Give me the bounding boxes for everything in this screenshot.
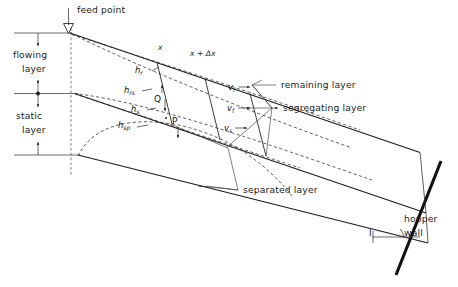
right-leaders — [170, 80, 278, 190]
static-layer-base — [78, 155, 428, 243]
static-layer-label-line1: static — [16, 110, 42, 121]
thickness-hsp: hsp — [118, 120, 130, 132]
static-layer-label-line2: layer — [22, 124, 46, 135]
diagram-svg: flowing layer static layer feed point — [0, 0, 458, 287]
separated-layer-leader-1 — [200, 148, 238, 190]
separated-layer-label: separated layer — [243, 184, 318, 195]
feed-point-label: feed point — [77, 4, 125, 15]
hr-leader — [152, 67, 159, 71]
cv-face-x-dx — [205, 79, 220, 141]
thickness-hrs: hrs — [124, 85, 136, 96]
remaining-layer-label: remaining layer — [281, 79, 356, 90]
velocity-vs: vs — [224, 123, 233, 134]
velocity-vf: vf — [227, 103, 235, 114]
thickness-hr: hr — [135, 65, 143, 76]
coord-x-plus-dx-label: x + Δx — [189, 49, 216, 58]
velocity-vr: vr — [228, 82, 236, 93]
flux-arrows: Q P — [154, 85, 178, 138]
segregating-layer-label: segregating layer — [283, 102, 366, 113]
hopper-wall-label-line2: wall — [404, 227, 423, 238]
coord-x-label: x — [157, 43, 163, 52]
hsp-leader — [137, 125, 148, 127]
hopper-wall-label-line1: hopper — [404, 213, 438, 224]
hrs-leader — [142, 89, 152, 91]
flux-P-dot — [165, 117, 167, 119]
flowing-layer-label-line1: flowing — [13, 49, 47, 60]
hs-leader — [147, 108, 156, 110]
remaining-layer-leader-tick — [252, 80, 262, 85]
flowing-layer-label-line2: layer — [22, 63, 46, 74]
thickness-hs: hs — [131, 104, 140, 115]
figure-canvas: flowing layer static layer feed point — [0, 0, 458, 287]
dim-junction-dot — [36, 92, 40, 96]
flux-P-label: P — [172, 116, 178, 126]
angle-label: I — [369, 228, 372, 238]
separated-layer-leader-dot — [199, 185, 201, 187]
control-volume — [157, 63, 266, 157]
flux-Q-label: Q — [154, 94, 161, 104]
